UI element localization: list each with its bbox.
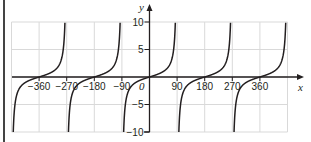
y-tick-label: −10 — [127, 127, 144, 138]
origin-label: 0 — [139, 80, 145, 92]
x-tick-label: 270 — [224, 81, 241, 92]
chart-svg: −360−270−180−9090180270360105−5−10 x y 0 — [0, 0, 311, 142]
y-tick-label: 10 — [132, 17, 144, 28]
y-axis-arrow-icon — [147, 4, 153, 11]
y-tick-label: −5 — [132, 99, 144, 110]
x-tick-label: −270 — [55, 81, 78, 92]
y-tick-label: 5 — [138, 44, 144, 55]
x-tick-label: 360 — [252, 81, 269, 92]
x-tick-label: 180 — [196, 81, 213, 92]
x-tick-label: −180 — [83, 81, 106, 92]
x-axis-arrow-icon — [297, 74, 304, 80]
tan-graph-figure: −360−270−180−9090180270360105−5−10 x y 0 — [0, 0, 311, 142]
x-axis-label: x — [297, 81, 303, 93]
left-border-line — [3, 0, 5, 142]
x-tick-label: 90 — [172, 81, 184, 92]
x-tick-label: −90 — [113, 81, 130, 92]
x-tick-label: −360 — [28, 81, 51, 92]
y-axis-label: y — [138, 1, 144, 13]
